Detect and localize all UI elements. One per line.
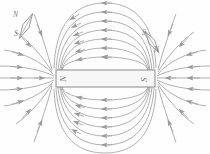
magnet-north-label: N [58, 75, 68, 83]
compass-left-north-label: N [12, 10, 19, 19]
field-lines-upper [54, 3, 156, 70]
needle-axis-left [19, 14, 32, 39]
magnet-south-label: S [139, 77, 149, 82]
field-lines-left-pole [0, 14, 54, 142]
field-lines-lower [54, 87, 156, 153]
bar-magnet: N S [56, 70, 155, 87]
compass-needle-left: N S [12, 10, 36, 40]
field-lines-right-pole [157, 14, 210, 142]
field-diagram: N S N S S N [0, 0, 210, 154]
figure-canvas: N S N S S N [0, 0, 210, 154]
compass-right-south-label: S [142, 28, 146, 37]
compass-right-north-label: N [153, 45, 160, 54]
compass-left-south-label: S [14, 29, 18, 38]
